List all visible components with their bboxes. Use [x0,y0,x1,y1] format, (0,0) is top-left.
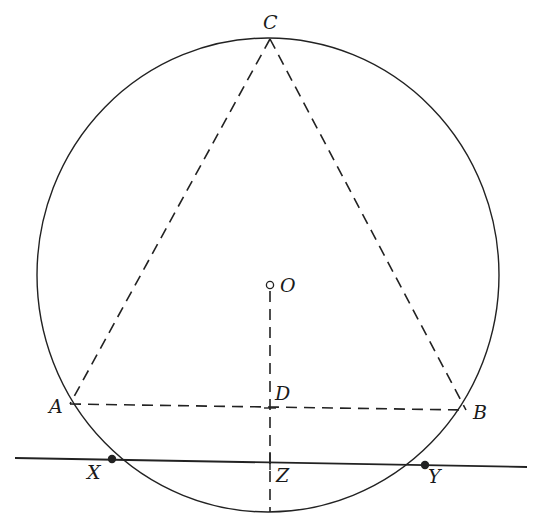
segment-cb [270,39,466,410]
center-point-o [266,281,273,288]
segment-ca [70,39,270,404]
label-c: C [263,11,278,33]
label-b: B [472,401,487,423]
label-a: A [47,395,63,417]
label-z: Z [275,464,290,486]
label-o: O [280,274,296,296]
label-y: Y [428,465,443,487]
geometry-diagram: C O A B D X Z Y [0,0,536,517]
segment-ab [70,404,466,410]
point-x [108,455,116,463]
label-x: X [85,461,102,483]
label-d: D [274,382,290,404]
circle [37,38,499,512]
